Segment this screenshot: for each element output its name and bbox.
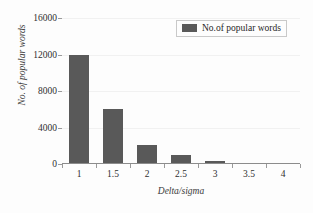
x-axis-tick-mark	[232, 164, 233, 168]
x-axis-tick-mark	[198, 164, 199, 168]
x-axis-tick-marks	[62, 164, 300, 168]
bar	[103, 109, 123, 164]
x-axis-tick-mark	[266, 164, 267, 168]
x-axis-tick-label: 3.5	[232, 169, 266, 179]
x-axis-tick-mark	[300, 164, 301, 168]
x-axis-tick-label: 4	[266, 169, 300, 179]
bar-series	[62, 18, 300, 164]
x-axis-tick-mark	[96, 164, 97, 168]
bar-slot	[62, 18, 96, 164]
legend-label: No.of popular words	[202, 23, 281, 33]
plot-area: 0400080001200016000	[62, 18, 300, 164]
x-axis-tick-label: 1	[62, 169, 96, 179]
y-axis-tick-label: 8000	[11, 86, 57, 96]
legend-swatch-icon	[182, 24, 197, 32]
bar-slot	[130, 18, 164, 164]
bar	[69, 55, 89, 165]
y-axis-tick-label: 0	[11, 159, 57, 169]
bar-slot	[198, 18, 232, 164]
y-axis-tick-label: 12000	[11, 50, 57, 60]
x-axis-tick-label: 2	[130, 169, 164, 179]
bar-slot	[96, 18, 130, 164]
y-axis-tick-label: 4000	[11, 123, 57, 133]
x-axis-title: Delta/sigma	[62, 186, 300, 196]
x-axis-tick-labels: 11.522.533.54	[62, 169, 300, 179]
bar-chart-figure: No. of popular words 0400080001200016000…	[0, 0, 313, 213]
y-axis-tick-label: 16000	[11, 13, 57, 23]
x-axis-tick-mark	[164, 164, 165, 168]
bar-slot	[266, 18, 300, 164]
x-axis-tick-mark	[62, 164, 63, 168]
legend: No.of popular words	[176, 20, 287, 37]
bar-slot	[164, 18, 198, 164]
bar-slot	[232, 18, 266, 164]
x-axis-tick-label: 3	[198, 169, 232, 179]
x-axis-tick-label: 1.5	[96, 169, 130, 179]
x-axis-tick-mark	[130, 164, 131, 168]
bar	[137, 145, 157, 164]
x-axis-tick-label: 2.5	[164, 169, 198, 179]
